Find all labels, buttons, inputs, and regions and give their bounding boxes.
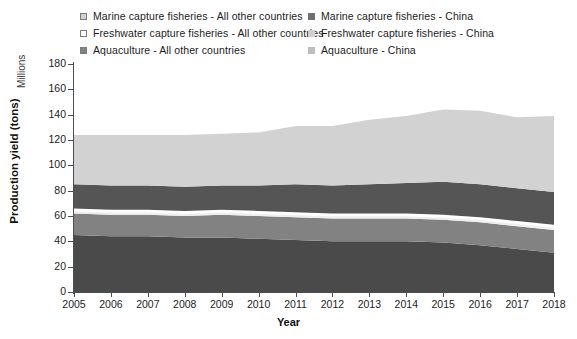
x-axis-tick: [185, 292, 186, 297]
legend-item-freshwater-other[interactable]: Freshwater capture fisheries - All other…: [80, 25, 324, 42]
x-axis-tick-label: 2014: [386, 298, 426, 310]
x-axis-tick-label: 2015: [423, 298, 463, 310]
y-axis-tick-label: 160: [32, 82, 66, 94]
x-axis-tick: [406, 292, 407, 297]
legend-label-freshwater-china: Freshwater capture fisheries - China: [321, 25, 494, 42]
y-axis-tick-label: 120: [32, 133, 66, 145]
x-axis-tick-label: 2012: [312, 298, 352, 310]
x-axis-tick-label: 2006: [91, 298, 131, 310]
legend-item-marine-china[interactable]: Marine capture fisheries - China: [308, 8, 494, 25]
x-axis-tick: [369, 292, 370, 297]
legend-item-freshwater-china[interactable]: Freshwater capture fisheries - China: [308, 25, 494, 42]
x-axis-tick: [554, 292, 555, 297]
x-axis-tick-label: 2007: [128, 298, 168, 310]
x-axis-tick-label: 2011: [276, 298, 316, 310]
y-axis-tick: [68, 191, 73, 192]
x-axis-line: [73, 292, 555, 293]
y-axis-tick: [68, 140, 73, 141]
legend-item-aquaculture-china[interactable]: Aquaculture - China: [308, 42, 494, 59]
x-axis-tick: [443, 292, 444, 297]
y-axis-tick-label: 80: [32, 184, 66, 196]
x-axis-tick-label: 2013: [349, 298, 389, 310]
y-axis-tick-label: 20: [32, 260, 66, 272]
y-axis-tick-labels: 020406080100120140160180: [28, 0, 66, 339]
x-axis-tick: [332, 292, 333, 297]
x-axis-tick: [111, 292, 112, 297]
y-axis-tick-label: 40: [32, 234, 66, 246]
x-axis-tick-label: 2005: [54, 298, 94, 310]
y-axis-tick-label: 0: [32, 285, 66, 297]
x-axis-tick-label: 2016: [460, 298, 500, 310]
legend-swatch-freshwater-other: [80, 30, 87, 37]
x-axis-tick-label: 2008: [165, 298, 205, 310]
legend-label-marine-china: Marine capture fisheries - China: [321, 8, 473, 25]
x-axis-tick: [296, 292, 297, 297]
x-axis-tick: [148, 292, 149, 297]
y-axis-tick: [68, 64, 73, 65]
legend-swatch-marine-china: [308, 13, 315, 20]
legend-label-marine-other: Marine capture fisheries - All other cou…: [93, 8, 303, 25]
area-series: [74, 110, 554, 192]
legend-swatch-marine-other: [80, 13, 87, 20]
plot-area: [74, 64, 554, 292]
y-axis-tick: [68, 89, 73, 90]
y-axis-tick-label: 140: [32, 108, 66, 120]
legend-column-left: Marine capture fisheries - All other cou…: [80, 8, 324, 59]
x-axis-tick-labels: 2005200620072008200920102011201220132014…: [0, 298, 577, 314]
legend-label-aquaculture-china: Aquaculture - China: [321, 42, 416, 59]
legend-item-aquaculture-other[interactable]: Aquaculture - All other countries: [80, 42, 324, 59]
y-axis-tick: [68, 241, 73, 242]
legend-swatch-freshwater-china: [308, 30, 315, 37]
x-axis-tick: [74, 292, 75, 297]
x-axis-tick-label: 2010: [239, 298, 279, 310]
y-axis-tick: [68, 115, 73, 116]
stacked-area-series: [74, 64, 554, 292]
chart-legend: Marine capture fisheries - All other cou…: [80, 8, 560, 60]
y-axis-tick: [68, 292, 73, 293]
x-axis-tick-label: 2017: [497, 298, 537, 310]
y-axis-units-label: Millions: [16, 55, 27, 88]
x-axis-tick: [480, 292, 481, 297]
y-axis-line: [73, 62, 74, 294]
x-axis-tick-label: 2009: [202, 298, 242, 310]
x-axis-tick: [222, 292, 223, 297]
x-axis-tick-label: 2018: [534, 298, 574, 310]
legend-column-right: Marine capture fisheries - China Freshwa…: [308, 8, 494, 59]
x-axis-tick: [259, 292, 260, 297]
chart-root: Marine capture fisheries - All other cou…: [0, 0, 577, 339]
legend-swatch-aquaculture-other: [80, 47, 87, 54]
legend-label-freshwater-other: Freshwater capture fisheries - All other…: [93, 25, 324, 42]
y-axis-tick-label: 100: [32, 158, 66, 170]
x-axis-title: Year: [0, 316, 577, 328]
y-axis-tick: [68, 165, 73, 166]
y-axis-tick-label: 60: [32, 209, 66, 221]
legend-label-aquaculture-other: Aquaculture - All other countries: [93, 42, 245, 59]
y-axis-tick-label: 180: [32, 57, 66, 69]
y-axis-tick: [68, 267, 73, 268]
legend-item-marine-other[interactable]: Marine capture fisheries - All other cou…: [80, 8, 324, 25]
x-axis-tick: [517, 292, 518, 297]
legend-swatch-aquaculture-china: [308, 47, 315, 54]
y-axis-tick: [68, 216, 73, 217]
